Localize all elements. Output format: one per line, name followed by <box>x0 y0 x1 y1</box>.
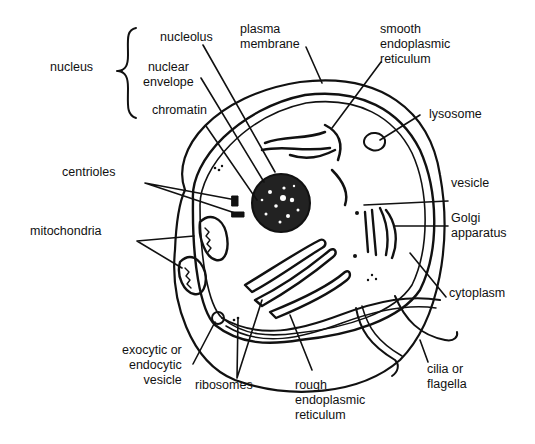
nucleus-shape <box>252 174 310 232</box>
label-nucleus: nucleus <box>50 60 93 75</box>
label-nucleolus: nucleolus <box>160 30 213 45</box>
centriole-1 <box>232 196 238 206</box>
label-cilia: cilia or flagella <box>427 362 467 392</box>
label-smooth-er: smooth endoplasmic reticulum <box>380 22 450 67</box>
label-nuclear-envelope: nuclear envelope <box>143 60 194 90</box>
label-rough-er: rough endoplasmic reticulum <box>295 378 365 423</box>
label-cytoplasm: cytoplasm <box>449 286 505 301</box>
nucleus-brace <box>118 28 136 118</box>
golgi <box>365 208 396 258</box>
lysosome-shape <box>364 133 385 151</box>
label-lysosome: lysosome <box>429 107 482 122</box>
label-golgi: Golgi apparatus <box>451 211 507 241</box>
label-vesicle: vesicle <box>451 176 489 191</box>
label-centrioles: centrioles <box>62 165 116 180</box>
label-mitochondria: mitochondria <box>30 224 102 239</box>
label-chromatin: chromatin <box>152 103 207 118</box>
label-exo-endo-vesicle: exocytic or endocytic vesicle <box>122 343 182 388</box>
label-plasma-membrane: plasma membrane <box>240 22 300 52</box>
label-ribosomes: ribosomes <box>195 378 253 393</box>
